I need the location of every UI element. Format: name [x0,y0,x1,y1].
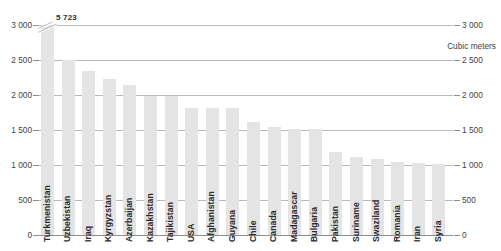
y-tick-dash-right-2500 [454,60,460,61]
y-tick-right-500: 500 [462,196,496,205]
bar-usa[interactable] [185,108,198,235]
y-tick-left-1000: 1 000 [2,161,32,170]
gridline-0 [39,235,453,236]
category-label-bulgaria: Bulgaria [310,207,319,242]
y-tick-dash-right-3000 [454,25,460,26]
gridline-2500 [39,60,453,61]
y-tick-left-1500: 1 500 [2,126,32,135]
category-label-suriname: Suriname [352,202,361,242]
y-tick-left-0: 0 [2,231,32,240]
y-tick-dash-right-500 [454,200,460,201]
bar-chart: Cubic meters 05001 0001 5002 0002 5003 0… [0,0,501,251]
y-tick-right-0: 0 [462,231,496,240]
category-label-romania: Romania [393,205,402,242]
category-label-tajikistan: Tajikistan [166,202,175,242]
category-label-guyana: Guyana [228,210,237,242]
bar-value-label-turkmenistan: 5 723 [56,13,77,22]
plot-area: 5 723 [39,25,453,235]
bar-iran[interactable] [412,163,425,235]
bar-iraq[interactable] [82,71,95,236]
category-label-chile: Chile [249,220,258,242]
y-tick-dash-right-2000 [454,95,460,96]
category-label-iran: Iran [413,226,422,242]
y-tick-left-2000: 2 000 [2,91,32,100]
category-label-swaziland: Swaziland [372,200,381,242]
y-tick-dash-right-0 [454,235,460,236]
category-label-madagascar: Madagascar [290,191,299,242]
gridline-3000 [39,25,453,26]
y-tick-right-1500: 1 500 [462,126,496,135]
category-label-afghanistan: Afghanistan [207,191,216,242]
category-label-kazakhstan: Kazakhstan [146,193,155,242]
gridline-2000 [39,95,453,96]
category-label-azerbaijan: Azerbaijan [125,198,134,242]
y-tick-right-2500: 2 500 [462,56,496,65]
gridline-1500 [39,130,453,131]
y-tick-dash-right-1000 [454,165,460,166]
category-label-iraq: Iraq [84,226,93,242]
y-tick-left-2500: 2 500 [2,56,32,65]
bar-chile[interactable] [247,122,260,235]
category-label-syria: Syria [434,220,443,242]
category-label-canada: Canada [269,210,278,242]
y-tick-right-3000: 3 000 [462,21,496,30]
y-tick-left-500: 500 [2,196,32,205]
category-label-uzbekistan: Uzbekistan [63,196,72,242]
y-tick-dash-right-1500 [454,130,460,131]
category-label-turkmenistan: Turkmenistan [43,185,52,242]
y-tick-right-1000: 1 000 [462,161,496,170]
category-label-kyrgyzstan: Kyrgyzstan [104,195,113,242]
y-tick-left-3000: 3 000 [2,21,32,30]
y-tick-right-2000: 2 000 [462,91,496,100]
category-label-usa: USA [187,224,196,242]
category-label-pakistan: Pakistan [331,206,340,242]
